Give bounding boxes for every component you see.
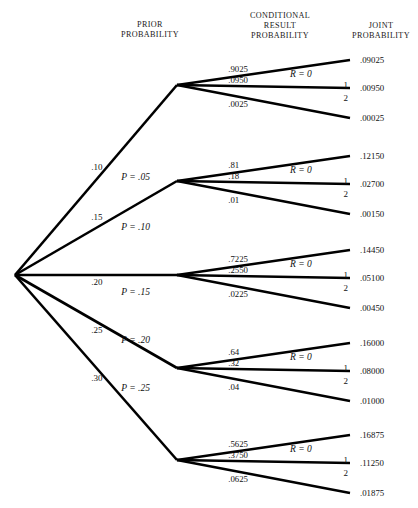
column-header-prior-line2: PROBABILITY [100, 30, 200, 40]
conditional-branch-line-2-0 [177, 250, 350, 275]
conditional-branch-line-0-2 [177, 85, 350, 118]
result-label-r0-2: R = 0 [290, 259, 312, 269]
joint-probability-label-0-1: .00950 [360, 83, 384, 93]
joint-probability-label-2-0: .14450 [360, 245, 384, 255]
result-label-r2-3: 2 [344, 376, 349, 386]
conditional-branch-line-2-1 [177, 275, 350, 278]
column-header-conditional-line3: PROBABILITY [225, 31, 335, 41]
prior-probability-label-1: .15 [91, 212, 102, 222]
result-label-r1-1: 1 [344, 176, 349, 186]
column-header-joint-line1: JOINT [345, 21, 417, 31]
joint-probability-label-4-1: .11250 [360, 458, 384, 468]
prior-branch-line-4 [15, 275, 177, 460]
joint-probability-label-1-2: .00150 [360, 209, 384, 219]
prior-probability-label-4: .30 [91, 373, 102, 383]
result-label-r2-4: 2 [344, 468, 349, 478]
conditional-probability-label-2-2: .0225 [228, 289, 248, 299]
joint-probability-label-3-2: .01000 [360, 396, 384, 406]
conditional-probability-label-2-1: .2550 [228, 265, 248, 275]
conditional-probability-label-3-0: .64 [228, 347, 239, 357]
joint-probability-label-2-1: .05100 [360, 273, 384, 283]
result-label-r0-0: R = 0 [290, 69, 312, 79]
prior-branch-line-1 [15, 181, 177, 275]
conditional-branch-line-3-1 [177, 368, 350, 371]
conditional-probability-label-3-2: .04 [228, 382, 239, 392]
conditional-branch-line-1-0 [177, 156, 350, 181]
conditional-branch-line-0-1 [177, 85, 350, 88]
conditional-probability-label-4-1: .3750 [228, 450, 248, 460]
conditional-branch-line-0-0 [177, 60, 350, 85]
conditional-branch-line-3-2 [177, 368, 350, 401]
conditional-probability-label-1-1: .18 [228, 171, 239, 181]
conditional-branch-line-4-0 [177, 435, 350, 460]
conditional-probability-label-2-0: .7225 [228, 254, 248, 264]
result-label-r2-2: 2 [344, 283, 349, 293]
conditional-probability-label-0-1: .0950 [228, 75, 248, 85]
column-header-conditional: CONDITIONAL RESULT PROBABILITY [225, 11, 335, 41]
prior-p-value-label-1: P = .10 [121, 222, 150, 232]
tree-branches-svg [0, 0, 418, 508]
joint-probability-label-1-0: .12150 [360, 151, 384, 161]
joint-probability-label-0-2: .00025 [360, 113, 384, 123]
prior-branch-line-3 [15, 275, 177, 368]
prior-p-value-label-3: P = .20 [121, 335, 150, 345]
column-header-joint-line2: PROBABILITY [345, 31, 417, 41]
conditional-probability-label-1-0: .81 [228, 160, 239, 170]
prior-p-value-label-0: P = .05 [121, 172, 150, 182]
conditional-probability-label-4-2: .0625 [228, 474, 248, 484]
probability-tree-diagram: PRIOR PROBABILITY CONDITIONAL RESULT PRO… [0, 0, 418, 508]
column-header-conditional-line2: RESULT [225, 21, 335, 31]
joint-probability-label-3-0: .16000 [360, 338, 384, 348]
result-label-r1-0: 1 [344, 80, 349, 90]
result-label-r2-0: 2 [344, 93, 349, 103]
conditional-branch-line-3-0 [177, 343, 350, 368]
result-label-r0-1: R = 0 [290, 165, 312, 175]
result-label-r1-4: 1 [344, 455, 349, 465]
column-header-prior-line1: PRIOR [100, 20, 200, 30]
prior-probability-label-0: .10 [91, 162, 102, 172]
conditional-probability-label-0-0: .9025 [228, 64, 248, 74]
prior-branch-line-0 [15, 85, 177, 275]
conditional-probability-label-0-2: .0025 [228, 99, 248, 109]
joint-probability-label-4-0: .16875 [360, 430, 384, 440]
column-header-prior: PRIOR PROBABILITY [100, 20, 200, 40]
conditional-probability-label-1-2: .01 [228, 195, 239, 205]
result-label-r1-2: 1 [344, 270, 349, 280]
result-label-r0-4: R = 0 [290, 444, 312, 454]
conditional-probability-label-4-0: .5625 [228, 439, 248, 449]
column-header-conditional-line1: CONDITIONAL [225, 11, 335, 21]
prior-p-value-label-4: P = .25 [121, 383, 150, 393]
joint-probability-label-2-2: .00450 [360, 303, 384, 313]
prior-probability-label-2: .20 [91, 277, 102, 287]
result-label-r1-3: 1 [344, 363, 349, 373]
joint-probability-label-0-0: .09025 [360, 55, 384, 65]
result-label-r2-1: 2 [344, 189, 349, 199]
result-label-r0-3: R = 0 [290, 352, 312, 362]
joint-probability-label-4-2: .01875 [360, 488, 384, 498]
conditional-branch-line-4-2 [177, 460, 350, 493]
column-header-joint: JOINT PROBABILITY [345, 21, 417, 41]
joint-probability-label-3-1: .08000 [360, 366, 384, 376]
conditional-branch-line-1-1 [177, 181, 350, 184]
prior-p-value-label-2: P = .15 [121, 287, 150, 297]
conditional-branch-line-2-2 [177, 275, 350, 308]
prior-probability-label-3: .25 [91, 325, 102, 335]
conditional-branch-line-1-2 [177, 181, 350, 214]
joint-probability-label-1-1: .02700 [360, 179, 384, 189]
conditional-probability-label-3-1: .32 [228, 358, 239, 368]
conditional-branch-line-4-1 [177, 460, 350, 463]
